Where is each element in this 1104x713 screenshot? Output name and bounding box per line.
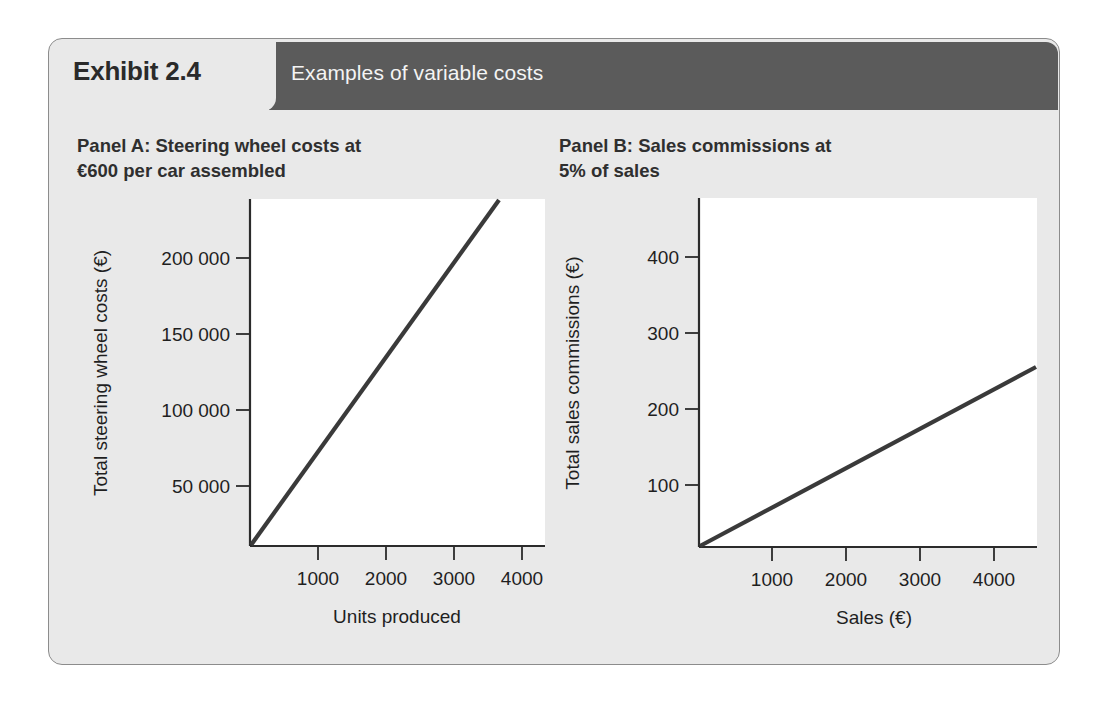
panel-a-plot-background bbox=[250, 199, 545, 546]
panel-a-xlabel-4000: 4000 bbox=[501, 568, 543, 589]
exhibit-header: Exhibit 2.4 Examples of variable costs bbox=[49, 39, 1059, 111]
panel-a-title-line1: Panel A: Steering wheel costs at bbox=[77, 135, 361, 156]
panel-b-xlabel-1000: 1000 bbox=[751, 569, 793, 590]
panel-a-ylabel-50000: 50 000 bbox=[172, 476, 230, 497]
panel-b-ylabel-200: 200 bbox=[647, 399, 679, 420]
panel-a-xlabel-2000: 2000 bbox=[365, 568, 407, 589]
panel-a-y-axis-title: Total steering wheel costs (€) bbox=[90, 250, 111, 496]
panel-b-xlabel-2000: 2000 bbox=[825, 569, 867, 590]
panel-b: Panel B: Sales commissions at 5% of sale… bbox=[539, 111, 1044, 666]
exhibit-card: Exhibit 2.4 Examples of variable costs P… bbox=[48, 38, 1060, 665]
panel-a-ylabel-150000: 150 000 bbox=[161, 324, 230, 345]
panel-b-xlabel-3000: 3000 bbox=[899, 569, 941, 590]
panel-b-chart-svg: 100 200 300 400 1000 2000 3000 4000 Tota… bbox=[539, 195, 1044, 655]
panel-a-xlabel-1000: 1000 bbox=[297, 568, 339, 589]
panel-b-plot-background bbox=[699, 198, 1037, 547]
panel-b-x-axis-title: Sales (€) bbox=[836, 607, 912, 628]
panel-b-title-line1: Panel B: Sales commissions at bbox=[559, 135, 831, 156]
panel-b-title: Panel B: Sales commissions at 5% of sale… bbox=[559, 133, 979, 183]
panel-a-ylabel-200000: 200 000 bbox=[161, 248, 230, 269]
panel-a: Panel A: Steering wheel costs at €600 pe… bbox=[67, 111, 557, 666]
panel-b-ylabel-300: 300 bbox=[647, 323, 679, 344]
panel-b-ylabel-400: 400 bbox=[647, 247, 679, 268]
panels-container: Panel A: Steering wheel costs at €600 pe… bbox=[49, 111, 1059, 666]
panel-a-title-line2: €600 per car assembled bbox=[77, 160, 286, 181]
panel-a-xlabel-3000: 3000 bbox=[433, 568, 475, 589]
panel-a-title: Panel A: Steering wheel costs at €600 pe… bbox=[77, 133, 497, 183]
panel-b-plot: 100 200 300 400 1000 2000 3000 4000 Tota… bbox=[539, 195, 1044, 655]
panel-b-title-line2: 5% of sales bbox=[559, 160, 660, 181]
panel-b-xlabel-4000: 4000 bbox=[973, 569, 1015, 590]
exhibit-caption-label: Examples of variable costs bbox=[291, 61, 543, 85]
panel-a-plot: 50 000 100 000 150 000 200 000 1000 2000… bbox=[67, 195, 557, 655]
panel-a-ylabel-100000: 100 000 bbox=[161, 400, 230, 421]
exhibit-number-label: Exhibit 2.4 bbox=[73, 56, 201, 87]
panel-a-x-axis-title: Units produced bbox=[333, 606, 461, 627]
panel-a-chart-svg: 50 000 100 000 150 000 200 000 1000 2000… bbox=[67, 195, 557, 655]
panel-b-ylabel-100: 100 bbox=[647, 475, 679, 496]
panel-b-y-axis-title: Total sales commissions (€) bbox=[562, 256, 583, 489]
